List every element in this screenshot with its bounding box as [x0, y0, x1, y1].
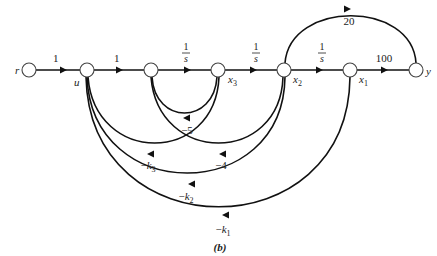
svg-text:1: 1	[254, 41, 259, 52]
arrow-icon	[222, 212, 229, 219]
gain-r-u: 1	[53, 52, 59, 64]
gain-x3-u: −k3	[140, 159, 155, 174]
arrow-icon	[147, 151, 154, 158]
feedback-branches	[86, 77, 350, 219]
gain-x2-n3: −4	[215, 159, 227, 171]
node-x2	[277, 63, 291, 77]
svg-text:s: s	[184, 53, 188, 64]
gain-x2-x1: 1 s	[318, 41, 326, 64]
arrow-icon	[219, 151, 226, 158]
svg-text:1: 1	[184, 41, 189, 52]
signal-flow-graph: r u x3 x2 x1 y 1 1 1 s 1 s 1 s 100 20 −5…	[0, 0, 437, 256]
figure-caption: (b)	[214, 241, 227, 254]
node-y	[409, 63, 423, 77]
arrow-icon	[183, 115, 190, 122]
arrow-icon	[184, 67, 191, 74]
gain-x1-y: 100	[376, 52, 393, 64]
arrow-icon	[60, 67, 67, 74]
gain-x2-y: 20	[344, 15, 356, 27]
svg-text:s: s	[320, 53, 324, 64]
svg-text:1: 1	[320, 41, 325, 52]
node-label-y: y	[425, 65, 431, 77]
gain-u-n3: 1	[114, 52, 120, 64]
arrow-icon	[116, 67, 123, 74]
node-u	[80, 63, 94, 77]
node-x1	[343, 63, 357, 77]
node-label-x3: x3	[227, 73, 237, 88]
branch-x1-u	[86, 77, 350, 207]
gain-x1-u: −k1	[215, 223, 230, 238]
arrow-icon	[188, 181, 195, 188]
gain-x3-x2: 1 s	[252, 41, 260, 64]
gain-n3-x3: 1 s	[182, 41, 190, 64]
node-n3	[144, 63, 158, 77]
arrow-icon	[344, 6, 351, 13]
node-r	[22, 63, 36, 77]
node-label-r: r	[15, 64, 20, 76]
feedback-gains: −5 −k3 −4 −k2 −k1	[140, 124, 230, 238]
node-label-x2: x2	[292, 73, 302, 88]
arrow-icon	[250, 67, 257, 74]
branch-x3-n3	[152, 77, 217, 113]
arrow-icon	[381, 67, 388, 74]
svg-text:s: s	[254, 53, 258, 64]
gain-x3-n3: −5	[181, 124, 193, 136]
node-label-u: u	[74, 76, 80, 88]
node-x3	[211, 63, 225, 77]
forward-gains: 1 1 1 s 1 s 1 s 100 20	[53, 15, 393, 64]
node-label-x1: x1	[358, 73, 368, 88]
arrow-icon	[316, 67, 323, 74]
